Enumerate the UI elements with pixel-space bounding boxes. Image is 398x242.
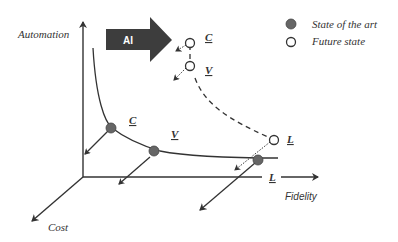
legend-label-state-of-art: State of the art <box>312 18 378 30</box>
cost-arrow-v <box>119 157 150 184</box>
legend-open-circle-icon <box>287 38 296 47</box>
cost-arrow-l <box>200 163 255 210</box>
x-axis-label: Fidelity <box>285 191 318 202</box>
label-v-state: V <box>171 128 180 140</box>
label-c-future: C <box>205 31 213 43</box>
state-of-art-point-v <box>149 146 159 156</box>
ai-arrow-shape <box>106 17 172 62</box>
future-arrow-v <box>174 68 186 80</box>
label-c-state: C <box>129 114 137 126</box>
axes <box>32 22 318 221</box>
ai-arrow: AI <box>106 17 172 62</box>
future-arrow-c <box>176 45 186 51</box>
ai-arrow-label: AI <box>123 35 133 46</box>
legend-filled-circle-icon <box>286 19 296 29</box>
state-of-art-point-c <box>106 123 116 133</box>
future-state-curve <box>190 45 268 137</box>
label-l-state: L <box>268 171 276 183</box>
label-l-future: L <box>286 133 294 145</box>
label-v-future: V <box>205 64 214 76</box>
future-point-v <box>186 62 195 71</box>
diagram-canvas: Automation Fidelity Cost C V L C V L <box>0 0 398 242</box>
future-point-c <box>186 39 195 48</box>
z-axis-label: Cost <box>48 221 69 233</box>
legend-label-future-state: Future state <box>311 35 365 47</box>
legend: State of the art Future state <box>286 18 378 47</box>
future-point-l <box>270 136 279 145</box>
z-axis-cost <box>32 177 83 221</box>
y-axis-label: Automation <box>17 28 70 40</box>
state-of-art-point-l <box>253 155 263 165</box>
cost-arrow-c <box>85 128 111 154</box>
